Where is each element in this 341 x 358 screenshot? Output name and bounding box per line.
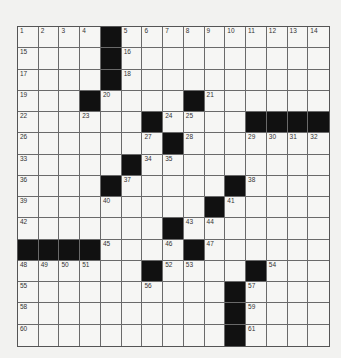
grid-cell[interactable] [39, 48, 60, 69]
grid-cell[interactable]: 15 [18, 48, 39, 69]
grid-cell[interactable] [205, 282, 226, 303]
grid-cell[interactable] [101, 282, 122, 303]
grid-cell[interactable]: 28 [184, 133, 205, 154]
grid-cell[interactable] [288, 282, 309, 303]
grid-cell[interactable] [184, 197, 205, 218]
grid-cell[interactable] [101, 303, 122, 324]
grid-cell[interactable]: 20 [101, 91, 122, 112]
grid-cell[interactable] [205, 261, 226, 282]
grid-cell[interactable]: 30 [267, 133, 288, 154]
grid-cell[interactable] [101, 218, 122, 239]
grid-cell[interactable]: 6 [142, 27, 163, 48]
grid-cell[interactable] [205, 325, 226, 346]
grid-cell[interactable] [59, 91, 80, 112]
grid-cell[interactable] [246, 218, 267, 239]
grid-cell[interactable] [225, 218, 246, 239]
grid-cell[interactable]: 60 [18, 325, 39, 346]
grid-cell[interactable] [80, 133, 101, 154]
grid-cell[interactable] [308, 197, 329, 218]
grid-cell[interactable] [288, 91, 309, 112]
grid-cell[interactable] [205, 48, 226, 69]
grid-cell[interactable] [101, 325, 122, 346]
grid-cell[interactable] [80, 303, 101, 324]
grid-cell[interactable] [267, 303, 288, 324]
grid-cell[interactable]: 61 [246, 325, 267, 346]
grid-cell[interactable]: 26 [18, 133, 39, 154]
grid-cell[interactable]: 22 [18, 112, 39, 133]
grid-cell[interactable]: 54 [267, 261, 288, 282]
grid-cell[interactable] [39, 325, 60, 346]
grid-cell[interactable] [80, 155, 101, 176]
grid-cell[interactable]: 58 [18, 303, 39, 324]
grid-cell[interactable]: 14 [308, 27, 329, 48]
grid-cell[interactable] [288, 197, 309, 218]
grid-cell[interactable]: 46 [163, 240, 184, 261]
grid-cell[interactable]: 37 [122, 176, 143, 197]
grid-cell[interactable] [246, 70, 267, 91]
grid-cell[interactable] [59, 197, 80, 218]
grid-cell[interactable] [39, 112, 60, 133]
grid-cell[interactable] [163, 70, 184, 91]
grid-cell[interactable]: 39 [18, 197, 39, 218]
grid-cell[interactable]: 32 [308, 133, 329, 154]
grid-cell[interactable]: 36 [18, 176, 39, 197]
grid-cell[interactable]: 8 [184, 27, 205, 48]
grid-cell[interactable] [59, 218, 80, 239]
grid-cell[interactable] [267, 282, 288, 303]
grid-cell[interactable] [59, 303, 80, 324]
grid-cell[interactable] [142, 176, 163, 197]
grid-cell[interactable] [308, 176, 329, 197]
grid-cell[interactable] [246, 240, 267, 261]
grid-cell[interactable]: 57 [246, 282, 267, 303]
grid-cell[interactable] [308, 155, 329, 176]
grid-cell[interactable] [246, 48, 267, 69]
grid-cell[interactable] [122, 282, 143, 303]
grid-cell[interactable]: 45 [101, 240, 122, 261]
grid-cell[interactable]: 3 [59, 27, 80, 48]
grid-cell[interactable] [288, 70, 309, 91]
grid-cell[interactable] [59, 176, 80, 197]
grid-cell[interactable]: 4 [80, 27, 101, 48]
grid-cell[interactable]: 18 [122, 70, 143, 91]
grid-cell[interactable] [184, 70, 205, 91]
grid-cell[interactable] [288, 218, 309, 239]
grid-cell[interactable] [101, 112, 122, 133]
grid-cell[interactable] [59, 282, 80, 303]
grid-cell[interactable] [225, 261, 246, 282]
grid-cell[interactable] [308, 70, 329, 91]
grid-cell[interactable] [163, 282, 184, 303]
grid-cell[interactable] [246, 197, 267, 218]
grid-cell[interactable] [225, 48, 246, 69]
grid-cell[interactable] [308, 282, 329, 303]
grid-cell[interactable] [288, 261, 309, 282]
grid-cell[interactable] [142, 48, 163, 69]
grid-cell[interactable] [246, 155, 267, 176]
grid-cell[interactable] [288, 240, 309, 261]
grid-cell[interactable] [163, 91, 184, 112]
grid-cell[interactable] [308, 218, 329, 239]
grid-cell[interactable]: 56 [142, 282, 163, 303]
grid-cell[interactable] [288, 155, 309, 176]
grid-cell[interactable] [184, 282, 205, 303]
grid-cell[interactable] [80, 282, 101, 303]
grid-cell[interactable] [39, 176, 60, 197]
grid-cell[interactable] [80, 70, 101, 91]
grid-cell[interactable]: 17 [18, 70, 39, 91]
grid-cell[interactable] [122, 261, 143, 282]
grid-cell[interactable] [39, 197, 60, 218]
grid-cell[interactable]: 34 [142, 155, 163, 176]
grid-cell[interactable] [184, 325, 205, 346]
grid-cell[interactable] [142, 325, 163, 346]
grid-cell[interactable] [101, 133, 122, 154]
grid-cell[interactable] [225, 91, 246, 112]
grid-cell[interactable] [184, 48, 205, 69]
grid-cell[interactable] [225, 240, 246, 261]
grid-cell[interactable] [205, 112, 226, 133]
grid-cell[interactable] [122, 112, 143, 133]
grid-cell[interactable] [308, 325, 329, 346]
grid-cell[interactable]: 51 [80, 261, 101, 282]
grid-cell[interactable] [225, 133, 246, 154]
grid-cell[interactable] [122, 197, 143, 218]
grid-cell[interactable] [308, 48, 329, 69]
grid-cell[interactable]: 50 [59, 261, 80, 282]
